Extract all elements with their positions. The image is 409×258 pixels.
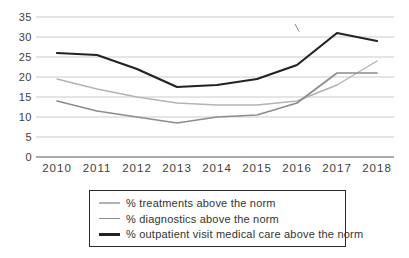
y-tick-label-5: 5	[25, 131, 32, 143]
series-line-diagnostics	[57, 73, 377, 123]
legend-swatch-treatments-line	[99, 202, 120, 204]
x-tick-label-2018: 2018	[362, 162, 392, 174]
x-tick-label-2013: 2013	[162, 162, 192, 174]
y-tick-label-35: 35	[19, 11, 32, 23]
y-tick-label-10: 10	[19, 111, 32, 123]
legend-item-diagnostics: % diagnostics above the norm	[99, 213, 341, 225]
x-tick-label-2017: 2017	[322, 162, 352, 174]
legend-label-treatments: % treatments above the norm	[126, 197, 276, 209]
legend-swatch-outpatient-line	[99, 233, 120, 236]
x-tick-label-2011: 2011	[83, 162, 112, 174]
x-tick-label-2014: 2014	[202, 162, 232, 174]
series-line-treatments	[57, 61, 377, 105]
x-tick-label-2016: 2016	[282, 162, 312, 174]
legend-item-outpatient: % outpatient visit medical care above th…	[99, 228, 341, 240]
legend-swatch-diagnostics-line	[99, 218, 120, 220]
line-chart-figure: 3530252015105020102011201220132014201520…	[0, 0, 409, 258]
y-tick-label-25: 25	[19, 51, 32, 63]
legend-label-diagnostics: % diagnostics above the norm	[126, 213, 279, 225]
x-tick-label-2010: 2010	[42, 162, 72, 174]
x-tick-label-2012: 2012	[122, 162, 152, 174]
plot-area: 3530252015105020102011201220132014201520…	[0, 0, 409, 182]
y-tick-label-15: 15	[19, 91, 32, 103]
stray-mark	[295, 24, 299, 32]
y-tick-label-20: 20	[19, 71, 32, 83]
legend-item-treatments: % treatments above the norm	[99, 197, 341, 209]
y-tick-label-0: 0	[25, 151, 32, 163]
x-tick-label-2015: 2015	[242, 162, 272, 174]
y-tick-label-30: 30	[19, 31, 32, 43]
legend-label-outpatient: % outpatient visit medical care above th…	[126, 228, 363, 240]
chart-legend: % treatments above the norm % diagnostic…	[89, 190, 346, 247]
